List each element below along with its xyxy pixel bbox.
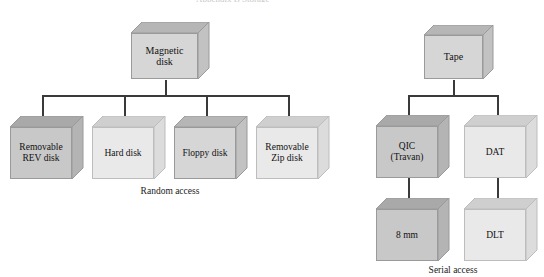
node-floppy-disk: Floppy disk [174,116,248,180]
node-8mm: 8 mm [376,198,450,262]
caption-random-access: Random access [110,186,230,196]
diagram-canvas: Appendix B Storage Magnetic disk [0,0,544,277]
connector-dat-to-dlt [497,178,499,199]
caption-serial-access: Serial access [398,265,508,275]
node-magnetic-disk: Magnetic disk [131,22,210,80]
node-qic-travan: QIC (Travan) [376,115,450,179]
connector-drop-zip [288,95,290,117]
node-hard-disk: Hard disk [92,116,166,180]
node-dlt: DLT [464,198,538,262]
node-label: DLT [464,230,526,241]
connector-drop-rev [42,95,44,117]
cut-off-header: Appendix B Storage [196,0,346,2]
node-label: Floppy disk [174,148,236,159]
connector-qic-to-8mm [408,178,410,199]
node-dat: DAT [464,115,538,179]
node-label: Removable Zip disk [256,142,318,163]
node-tape: Tape [424,25,494,80]
connector-drop-dat [497,95,499,116]
node-label: Hard disk [92,148,154,159]
connector-drop-qic [408,95,410,116]
node-label: Magnetic disk [131,45,198,67]
node-label: 8 mm [376,230,438,241]
connector-drop-hard [124,95,126,117]
node-removable-rev-disk: Removable REV disk [10,116,84,180]
node-removable-zip-disk: Removable Zip disk [256,116,330,180]
connector-tape-bus [408,95,499,97]
connector-drop-floppy [206,95,208,117]
node-label: Tape [424,51,483,62]
node-label: Removable REV disk [10,142,72,163]
connector-magnetic-stem [165,80,167,95]
connector-magnetic-bus [42,95,289,97]
node-label: QIC (Travan) [376,141,438,162]
node-label: DAT [464,147,526,158]
connector-tape-stem [453,80,455,95]
